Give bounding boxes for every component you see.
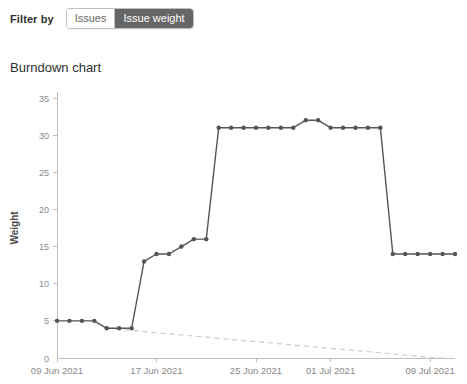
data-point[interactable] (179, 244, 183, 248)
data-point[interactable] (453, 252, 457, 256)
data-point[interactable] (279, 126, 283, 130)
data-point[interactable] (129, 326, 133, 330)
data-point[interactable] (328, 126, 332, 130)
data-point[interactable] (403, 252, 407, 256)
data-point[interactable] (167, 252, 171, 256)
data-point[interactable] (67, 319, 71, 323)
x-tick-label: 09 Jul 2021 (406, 365, 455, 376)
y-tick-label: 15 (39, 242, 49, 252)
x-tick-label: 17 Jun 2021 (130, 365, 182, 376)
y-tick-label: 5 (44, 316, 49, 326)
filter-bar: Filter by Issues Issue weight (10, 8, 194, 29)
data-point[interactable] (353, 126, 357, 130)
data-point[interactable] (415, 252, 419, 256)
data-point[interactable] (154, 252, 158, 256)
data-point[interactable] (440, 252, 444, 256)
data-point[interactable] (254, 126, 258, 130)
data-point[interactable] (80, 319, 84, 323)
data-point[interactable] (266, 126, 270, 130)
y-tick-label: 0 (44, 354, 49, 364)
x-tick-label: 01 Jul 2021 (306, 365, 355, 376)
y-axis-title: Weight (9, 211, 20, 245)
data-point[interactable] (229, 126, 233, 130)
y-tick-label: 20 (39, 205, 49, 215)
data-point[interactable] (105, 326, 109, 330)
page-title: Burndown chart (10, 60, 101, 75)
filter-option-issues[interactable]: Issues (67, 9, 115, 28)
data-point[interactable] (304, 118, 308, 122)
y-tick-label: 10 (39, 279, 49, 289)
data-point[interactable] (341, 126, 345, 130)
ideal-burndown-guideline (107, 328, 443, 358)
remaining-weight-line (57, 120, 455, 328)
data-point[interactable] (391, 252, 395, 256)
data-point[interactable] (117, 326, 121, 330)
data-point[interactable] (55, 319, 59, 323)
filter-toggle-group[interactable]: Issues Issue weight (66, 8, 194, 29)
y-tick-label: 30 (39, 131, 49, 141)
data-point[interactable] (291, 126, 295, 130)
data-point[interactable] (192, 237, 196, 241)
y-tick-label: 25 (39, 168, 49, 178)
data-point[interactable] (216, 126, 220, 130)
x-tick-label: 25 Jun 2021 (230, 365, 282, 376)
data-point[interactable] (92, 319, 96, 323)
data-point[interactable] (316, 118, 320, 122)
chart-canvas: 05101520253035Weight09 Jun 202117 Jun 20… (0, 82, 467, 384)
data-point[interactable] (428, 252, 432, 256)
data-point[interactable] (241, 126, 245, 130)
filter-option-issue-weight[interactable]: Issue weight (114, 9, 192, 28)
data-point[interactable] (204, 237, 208, 241)
data-point[interactable] (366, 126, 370, 130)
data-point[interactable] (142, 259, 146, 263)
burndown-chart: 05101520253035Weight09 Jun 202117 Jun 20… (0, 82, 467, 384)
filter-label: Filter by (10, 13, 54, 25)
y-tick-label: 35 (39, 94, 49, 104)
x-tick-label: 09 Jun 2021 (31, 365, 83, 376)
data-point[interactable] (378, 126, 382, 130)
